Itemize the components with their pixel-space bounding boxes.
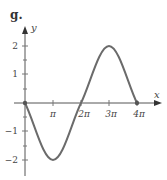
chart-plot: y x π 2π 3π 4π 2 1 −1 −2 [0, 0, 167, 180]
x-tick-label-2pi: 2π [77, 109, 91, 119]
y-axis-label: y [30, 22, 37, 33]
x-axis-label: x [154, 89, 160, 100]
end-point [135, 101, 139, 105]
start-point [23, 101, 27, 105]
x-tick-label-3pi: 3π [105, 109, 118, 119]
x-tick-label-4pi: 4π [132, 109, 146, 119]
y-tick-label-1: 1 [12, 69, 18, 79]
y-tick-label-2: 2 [12, 41, 18, 51]
y-axis-arrow-icon [22, 26, 28, 34]
y-tick-label-neg1: −1 [5, 126, 18, 136]
y-tick-label-neg2: −2 [5, 155, 18, 165]
x-axis-arrow-icon [154, 100, 162, 106]
x-tick-label-pi: π [49, 109, 57, 119]
